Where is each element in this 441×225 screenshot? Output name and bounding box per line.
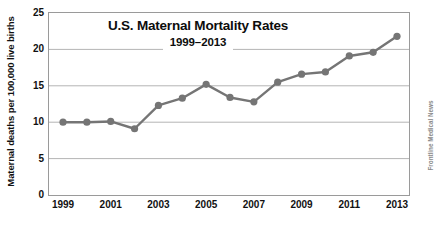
data-point-marker (203, 81, 210, 88)
data-point-marker (250, 98, 257, 105)
x-axis-tick-label: 1999 (39, 199, 87, 211)
data-point-marker (83, 119, 90, 126)
data-line (63, 36, 397, 128)
x-axis-tick-label: 2011 (325, 199, 373, 211)
source-credit-container: Frontline Medical News (419, 0, 441, 225)
data-point-marker (59, 119, 66, 126)
source-credit: Frontline Medical News (427, 66, 434, 206)
x-axis-tick-label: 2003 (134, 199, 182, 211)
y-axis-tick-label: 5 (18, 154, 44, 164)
data-point-marker (274, 79, 281, 86)
y-axis-tick-label: 15 (18, 81, 44, 91)
x-axis-tick-label: 2005 (182, 199, 230, 211)
x-axis-tick-label: 2013 (373, 199, 421, 211)
chart-subtitle: 1999–2013 (48, 36, 348, 48)
y-axis-tick-label: 10 (18, 117, 44, 127)
data-point-marker (370, 49, 377, 56)
data-point-marker (131, 125, 138, 132)
data-point-marker (298, 71, 305, 78)
x-axis-tick-labels: 19992001200320052007200920112013 (48, 199, 410, 219)
x-axis-tick-label: 2007 (230, 199, 278, 211)
x-axis-tick-label: 2009 (278, 199, 326, 211)
chart-title: U.S. Maternal Mortality Rates (48, 18, 348, 33)
y-axis-tick-labels: 0510152025 (14, 0, 44, 225)
x-axis-tick-label: 2001 (87, 199, 135, 211)
y-axis-tick-label: 20 (18, 44, 44, 54)
data-point-marker (322, 68, 329, 75)
chart-figure: Maternal deaths per 100,000 live births … (0, 0, 441, 225)
data-point-marker (393, 33, 400, 40)
data-point-marker (155, 102, 162, 109)
data-point-marker (179, 95, 186, 102)
y-axis-tick-label: 25 (18, 8, 44, 18)
data-point-marker (346, 52, 353, 59)
data-point-marker (226, 94, 233, 101)
data-point-marker (107, 118, 114, 125)
